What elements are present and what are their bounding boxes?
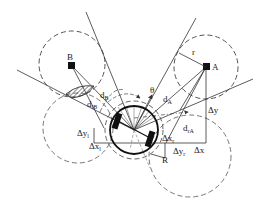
obstacle-A-marker bbox=[203, 63, 210, 70]
distance-lines-A bbox=[134, 67, 206, 143]
label-A: A bbox=[212, 62, 219, 72]
left-delta-lines bbox=[94, 128, 134, 143]
label-delta-y-left: Δyl bbox=[77, 128, 89, 139]
label-delta-y: Δy bbox=[208, 105, 219, 115]
label-theta: θ bbox=[150, 85, 154, 95]
label-delta-x: Δx bbox=[194, 145, 205, 155]
label-drA: drA bbox=[183, 123, 194, 134]
left-wheel bbox=[112, 112, 123, 129]
label-dlB: dlB bbox=[87, 99, 97, 110]
robot-axle bbox=[118, 121, 152, 139]
label-R: R bbox=[162, 155, 168, 165]
label-B: B bbox=[67, 52, 73, 62]
label-r: r bbox=[192, 47, 195, 57]
label-dA: dA bbox=[163, 94, 173, 105]
robot-obstacle-diagram: B A r θ dA dB dlB drA Δy Δx Δyl Δxl Δxr … bbox=[0, 0, 267, 209]
obstacle-B-marker bbox=[68, 62, 75, 69]
label-dB: dB bbox=[100, 90, 109, 101]
label-delta-y-right: Δyr bbox=[173, 146, 185, 157]
label-delta-x-right: Δxr bbox=[162, 133, 174, 144]
